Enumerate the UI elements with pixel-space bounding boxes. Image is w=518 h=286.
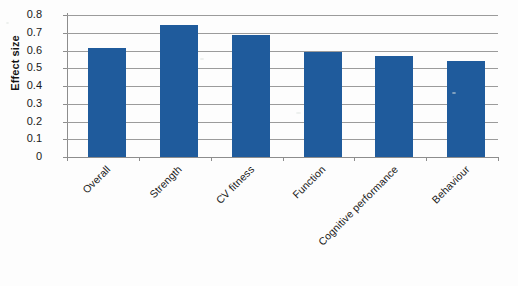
bar (160, 25, 198, 157)
y-axis-tick-label: 0 (8, 150, 42, 162)
x-axis-tick-label-text: Strength (147, 163, 184, 200)
y-tick-mark (63, 86, 67, 87)
x-tick-mark (211, 157, 212, 161)
scan-speck (6, 22, 9, 24)
gridline (67, 51, 498, 52)
scan-speck (200, 58, 204, 60)
gridline (67, 104, 498, 105)
x-tick-mark (139, 157, 140, 161)
x-axis-tick-label-text: Overall (80, 163, 113, 196)
bar (447, 61, 485, 157)
y-axis-tick-label: 0.5 (8, 61, 42, 73)
gridline (67, 33, 498, 34)
x-tick-mark (498, 157, 499, 161)
plot-area: 0.80.70.60.50.40.30.20.10 (67, 15, 498, 157)
y-axis-line (67, 13, 68, 157)
y-tick-mark (63, 51, 67, 52)
y-tick-mark (63, 33, 67, 34)
scan-speck (296, 112, 301, 114)
x-tick-mark (283, 157, 284, 161)
gridline (67, 86, 498, 87)
y-axis-tick-label: 0.7 (8, 26, 42, 38)
y-tick-mark (63, 139, 67, 140)
y-tick-mark (63, 104, 67, 105)
x-tick-mark (426, 157, 427, 161)
x-axis-tick-label-text: Cognitive performance (315, 163, 400, 248)
x-axis-tick-label-text: Behaviour (429, 163, 472, 206)
bar (232, 35, 270, 157)
x-tick-mark (67, 157, 68, 161)
bar-chart-figure: Effect size 0.80.70.60.50.40.30.20.10 Ov… (0, 0, 518, 286)
y-axis-tick-label: 0.3 (8, 97, 42, 109)
x-tick-mark (354, 157, 355, 161)
gridline (67, 122, 498, 123)
bar (375, 56, 413, 157)
bar (304, 52, 342, 157)
gridline (67, 15, 498, 16)
x-axis-tick-label-text: Function (290, 163, 328, 201)
y-axis-tick-label: 0.6 (8, 44, 42, 56)
x-axis-tick-label-text: CV fitness (213, 163, 256, 206)
bar (88, 48, 126, 157)
gridline (67, 68, 498, 69)
y-axis-tick-label: 0.1 (8, 132, 42, 144)
scan-speck (452, 92, 456, 94)
y-tick-mark (63, 15, 67, 16)
gridline (67, 139, 498, 140)
y-tick-mark (63, 68, 67, 69)
y-axis-tick-label: 0.4 (8, 79, 42, 91)
y-axis-tick-label: 0.2 (8, 115, 42, 127)
y-axis-tick-label: 0.8 (8, 8, 42, 20)
y-tick-mark (63, 122, 67, 123)
